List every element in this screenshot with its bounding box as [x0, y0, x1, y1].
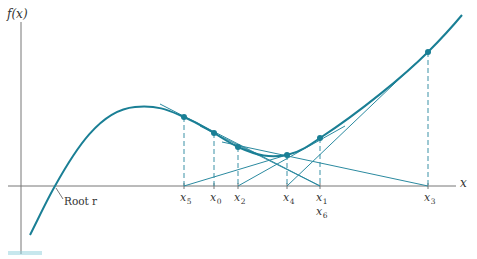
figure-caption-stub: [8, 251, 42, 255]
label-x3: x3: [424, 192, 436, 204]
tangent-lines: [160, 42, 438, 186]
iterate-dashed-lines: [184, 52, 428, 186]
newton-method-diagram: [0, 0, 477, 259]
label-x5: x5: [180, 192, 192, 204]
point-x4: [284, 152, 290, 158]
point-x1: [317, 135, 323, 141]
label-x4: x4: [283, 192, 295, 204]
point-x3: [425, 49, 431, 55]
point-x2: [235, 144, 241, 150]
root-label: Root r: [64, 196, 97, 207]
label-x0: x0: [210, 192, 222, 204]
point-x0: [211, 130, 217, 136]
x-axis-label: x: [460, 178, 467, 189]
label-x1: x1: [316, 192, 328, 204]
tangent-x2-to-x3: [222, 142, 428, 186]
label-x6: x6: [316, 206, 328, 218]
iterate-points: [181, 49, 431, 158]
y-axis-label: f(x): [7, 9, 28, 20]
tangent-x1-to-x2: [238, 126, 345, 186]
root-leader-line: [56, 188, 63, 199]
point-x5: [181, 114, 187, 120]
label-x2: x2: [234, 192, 246, 204]
